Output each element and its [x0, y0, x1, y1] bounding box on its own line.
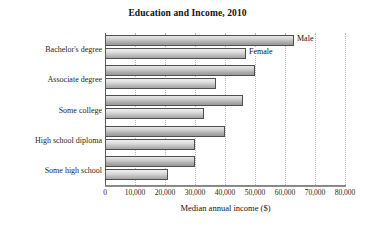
bar-male	[105, 156, 195, 167]
bar-male	[105, 35, 294, 46]
y-axis-label: High school diploma	[2, 136, 102, 145]
bar-group	[105, 156, 345, 186]
bar-female	[105, 78, 216, 89]
series-annotation-male: Male	[296, 34, 314, 43]
bar-group	[105, 65, 345, 95]
bar-group	[105, 95, 345, 125]
chart-title: Education and Income, 2010	[0, 8, 375, 18]
chart-figure: Education and Income, 2010 Bachelor's de…	[0, 0, 375, 228]
y-axis-label: Some high school	[2, 166, 102, 175]
x-tick-label: 50,000	[245, 188, 266, 197]
x-axis-line	[105, 185, 346, 187]
bar-group	[105, 126, 345, 156]
gridline-80000	[345, 33, 346, 185]
y-axis-category-labels: Bachelor's degreeAssociate degreeSome co…	[0, 33, 102, 185]
bar-female	[105, 169, 168, 180]
bar-male	[105, 95, 243, 106]
bar-female	[105, 48, 246, 59]
bar-male	[105, 65, 255, 76]
x-tick-label: 0	[103, 188, 107, 197]
x-tick-label: 10,000	[125, 188, 146, 197]
x-tick-label: 20,000	[155, 188, 176, 197]
x-tick-label: 30,000	[185, 188, 206, 197]
bar-female	[105, 108, 204, 119]
y-axis-label: Bachelor's degree	[2, 45, 102, 54]
x-axis-tick-labels: 010,00020,00030,00040,00050,00060,00070,…	[0, 188, 375, 200]
bar-male	[105, 126, 225, 137]
x-tick-label: 60,000	[275, 188, 296, 197]
y-axis-line	[105, 33, 106, 185]
plot-area: MaleFemale	[105, 33, 345, 185]
x-tick-label: 40,000	[215, 188, 236, 197]
y-axis-label: Some college	[2, 106, 102, 115]
x-axis-title: Median annual income ($)	[105, 203, 346, 213]
series-annotation-female: Female	[248, 47, 274, 56]
bar-female	[105, 139, 195, 150]
y-axis-label: Associate degree	[2, 75, 102, 84]
x-tick-label: 80,000	[335, 188, 356, 197]
x-tick-label: 70,000	[305, 188, 326, 197]
